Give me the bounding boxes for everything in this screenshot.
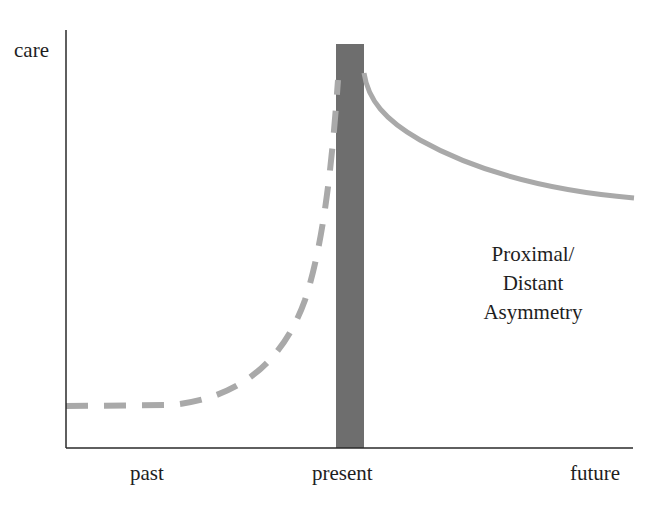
x-tick-present: present [312, 461, 373, 486]
past-care-dashed-curve [66, 80, 338, 406]
asymmetry-annotation: Proximal/ Distant Asymmetry [448, 240, 618, 327]
y-axis-label: care [14, 38, 49, 63]
annotation-line-2: Distant [448, 269, 618, 298]
x-tick-future: future [570, 461, 620, 486]
annotation-line-1: Proximal/ [448, 240, 618, 269]
future-care-solid-curve [364, 73, 634, 198]
annotation-line-3: Asymmetry [448, 298, 618, 327]
present-bar [336, 44, 364, 448]
x-tick-past: past [130, 461, 164, 486]
